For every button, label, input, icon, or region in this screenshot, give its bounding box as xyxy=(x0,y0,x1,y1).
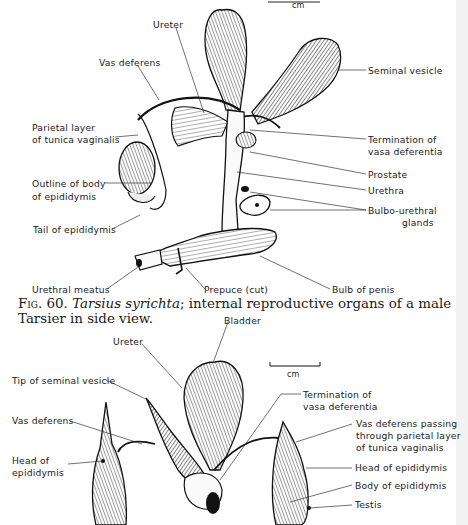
bottom-scale-unit: cm xyxy=(287,369,300,380)
epididymis-left-head xyxy=(93,402,127,525)
testis-top xyxy=(119,142,155,194)
label-testis: Testis xyxy=(355,499,382,510)
label-tail-epididymis: Tail of epididymis xyxy=(33,224,116,235)
label-bulbo-urethral-1: Bulbo-urethral xyxy=(368,205,437,216)
top-scale-unit: cm xyxy=(292,0,305,11)
label-vas-passing-1: Vas deferens passing xyxy=(356,418,457,429)
label-head-epididymis-right: Head of epididymis xyxy=(355,462,447,473)
label-vas-passing-2: through parietal layer xyxy=(356,430,461,441)
label-bulb-penis: Bulb of penis xyxy=(332,284,394,295)
label-termination-bottom-2: vasa deferentia xyxy=(303,401,378,412)
penis-shaft xyxy=(150,229,276,266)
label-termination-top-2: vasa deferentia xyxy=(368,146,443,157)
label-parietal-layer-2: of tunica vaginalis xyxy=(32,134,120,145)
scale-bar xyxy=(270,362,320,366)
label-vas-deferens-bottom: Vas deferens xyxy=(12,415,74,426)
label-seminal-vesicle: Seminal vesicle xyxy=(368,65,443,76)
label-urethral-meatus: Urethral meatus xyxy=(32,284,110,295)
label-bladder: Bladder xyxy=(224,315,261,326)
label-head-epididymis-left-1: Head of xyxy=(12,455,49,466)
label-termination-top-1: Termination of xyxy=(368,134,436,145)
caption-species: Tarsius syrichta xyxy=(72,296,180,311)
label-head-epididymis-left-2: epididymis xyxy=(12,467,64,478)
top-figure xyxy=(119,2,341,274)
label-vas-deferens-top: Vas deferens xyxy=(99,57,161,68)
seminal-vesicle-left xyxy=(205,10,247,112)
bulbo-urethral-gland xyxy=(240,195,270,215)
label-ureter-top: Ureter xyxy=(153,19,183,30)
label-prepuce: Prepuce (cut) xyxy=(204,284,268,295)
label-bulbo-urethral-2: glands xyxy=(402,217,434,228)
ureter-stump xyxy=(172,107,228,146)
bottom-figure xyxy=(93,361,320,525)
label-urethra: Urethra xyxy=(368,185,404,196)
prostate-gland xyxy=(236,132,256,148)
seminal-vesicle-right xyxy=(252,38,341,124)
label-outline-body-1: Outline of body xyxy=(32,178,106,189)
label-body-epididymis: Body of epididymis xyxy=(355,480,446,491)
bladder xyxy=(184,361,243,470)
label-parietal-layer-1: Parietal layer xyxy=(32,122,95,133)
label-vas-passing-3: of tunica vaginalis xyxy=(356,442,444,453)
label-ureter-bottom: Ureter xyxy=(113,336,143,347)
label-outline-body-2: of epididymis xyxy=(32,191,96,202)
caption-figure-number: Fig. 60. xyxy=(18,296,68,311)
label-prostate: Prostate xyxy=(368,169,407,180)
label-termination-bottom-1: Termination of xyxy=(303,389,371,400)
label-tip-seminal-vesicle: Tip of seminal vesicle xyxy=(12,375,115,386)
